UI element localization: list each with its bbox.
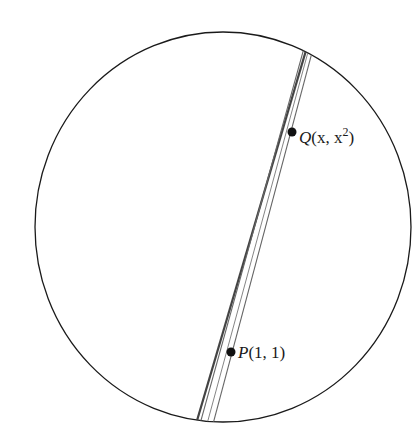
point-q-label: Q(x, x2) [299, 125, 354, 147]
point-p-label: P(1, 1) [237, 343, 285, 362]
magnified-diagram: Q(x, x2) P(1, 1) [0, 0, 418, 435]
secant-line-3 [207, 30, 314, 424]
point-q-dot [288, 128, 297, 137]
secant-lines [196, 30, 318, 424]
secant-line-1 [200, 30, 309, 424]
point-p-dot [227, 348, 236, 357]
secant-line-2 [213, 30, 318, 424]
